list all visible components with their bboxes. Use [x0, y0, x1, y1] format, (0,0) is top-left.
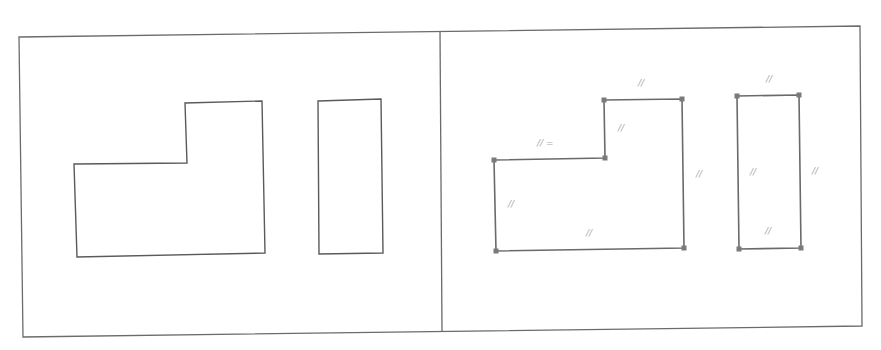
sketch-canvas: ////// =////////////// — [0, 0, 881, 350]
vertex-handle[interactable] — [680, 97, 685, 102]
vertex-handle[interactable] — [603, 156, 608, 161]
panel-divider — [440, 31, 442, 331]
parallel-constraint-mark: // — [695, 169, 703, 179]
vertex-handle[interactable] — [737, 247, 742, 252]
vertex-handle[interactable] — [797, 93, 802, 98]
right-panel-beautified-sketch: ////// =////////////// — [492, 74, 820, 254]
parallel-constraint-mark: // = — [536, 138, 553, 148]
parallel-constraint-mark: // — [585, 228, 593, 238]
parallel-constraint-mark: // — [764, 226, 772, 236]
vertex-handle[interactable] — [494, 249, 499, 254]
parallel-constraint-mark: // — [811, 166, 819, 176]
left-panel-raw-sketch — [74, 99, 383, 257]
parallel-constraint-mark: // — [617, 123, 625, 133]
vertex-handle[interactable] — [735, 94, 740, 99]
vertex-handle[interactable] — [602, 98, 607, 103]
parallel-constraint-mark: // — [637, 78, 645, 88]
vertex-handle[interactable] — [492, 158, 497, 163]
parallel-constraint-mark: // — [765, 74, 773, 84]
rectangle-outline — [318, 99, 383, 254]
vertex-handle[interactable] — [799, 246, 804, 251]
vertex-handle[interactable] — [682, 246, 687, 251]
l-shape-outline — [74, 101, 265, 257]
parallel-constraint-mark: // — [749, 167, 757, 177]
parallel-constraint-mark: // — [507, 199, 515, 209]
